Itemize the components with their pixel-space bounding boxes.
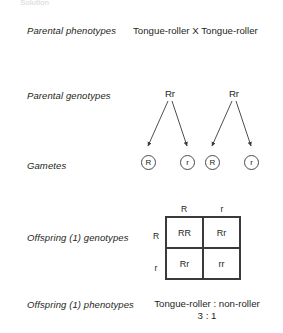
punnett-row-header-2: r xyxy=(150,263,162,273)
punnett-cell-r0c0: RR xyxy=(166,217,204,249)
punnett-cell-r1c1: rr xyxy=(203,248,241,280)
punnett-square-grid: RR Rr Rr rr xyxy=(165,216,241,280)
punnett-cell-r1c0: Rr xyxy=(166,248,204,280)
punnett-row-header-1: R xyxy=(150,231,162,241)
punnett-cell-r0c1: Rr xyxy=(203,217,241,249)
gamete-circle-parent2-R: R xyxy=(205,155,220,170)
gamete-circle-parent1-r: r xyxy=(180,155,195,170)
gamete-circle-parent2-r: r xyxy=(244,155,259,170)
punnett-column-header-1: R xyxy=(177,204,191,214)
gamete-circle-parent1-R: R xyxy=(141,155,156,170)
offspring-phenotype-ratio-values: 3 : 1 xyxy=(137,310,277,321)
row-label-offspring-genotypes: Offspring (1) genotypes xyxy=(27,232,129,243)
row-label-offspring-phenotypes: Offspring (1) phenotypes xyxy=(27,299,134,310)
row-label-gametes: Gametes xyxy=(27,160,66,171)
punnett-column-header-2: r xyxy=(215,204,229,214)
offspring-phenotype-ratio-labels: Tongue-roller : non-roller xyxy=(137,298,277,309)
punnett-square-diagram: Solution Parental phenotypes Tongue-roll… xyxy=(0,0,283,333)
